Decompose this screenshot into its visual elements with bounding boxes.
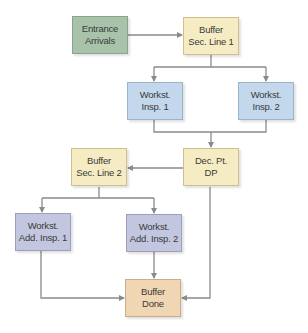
node-buffer-sec-line-1: Buffer Sec. Line 1 — [183, 17, 239, 55]
node-label-line1: Buffer — [141, 286, 165, 298]
node-label-line2: Insp. 2 — [252, 101, 279, 113]
node-label-line2: Insp. 1 — [141, 101, 168, 113]
node-label-line2: Add. Insp. 1 — [19, 232, 67, 244]
node-workst-add-insp-2: Workst. Add. Insp. 2 — [126, 214, 182, 252]
node-label-line2: Add. Insp. 2 — [130, 233, 178, 245]
node-label-line2: Done — [142, 298, 164, 310]
node-label-line1: Workst. — [140, 89, 171, 101]
node-label-line2: DP — [205, 167, 218, 179]
arrow-dp-to-done — [182, 187, 210, 298]
arrow-addinsp1-to-done — [41, 251, 124, 298]
node-label-line1: Entrance — [82, 23, 118, 35]
node-label-line1: Dec. Pt. — [195, 155, 227, 167]
node-label-line2: Arrivals — [85, 35, 115, 47]
node-label-line2: Sec. Line 2 — [76, 167, 121, 179]
node-workst-insp-1: Workst. Insp. 1 — [127, 82, 183, 120]
node-workst-add-insp-1: Workst. Add. Insp. 1 — [15, 213, 71, 251]
node-decision-point-dp: Dec. Pt. DP — [183, 148, 239, 186]
node-label-line1: Buffer — [199, 24, 223, 36]
node-entrance-arrivals: Entrance Arrivals — [72, 16, 128, 54]
node-label-line1: Buffer — [87, 155, 111, 167]
node-workst-insp-2: Workst. Insp. 2 — [238, 82, 294, 120]
node-label-line1: Workst. — [28, 220, 59, 232]
node-label-line1: Workst. — [139, 221, 170, 233]
flowchart-canvas: Entrance Arrivals Buffer Sec. Line 1 Wor… — [0, 0, 308, 333]
node-label-line1: Workst. — [251, 89, 282, 101]
node-buffer-done: Buffer Done — [125, 279, 181, 317]
node-buffer-sec-line-2: Buffer Sec. Line 2 — [71, 148, 127, 186]
arrow-insp1-down — [154, 120, 266, 132]
node-label-line2: Sec. Line 1 — [188, 36, 233, 48]
